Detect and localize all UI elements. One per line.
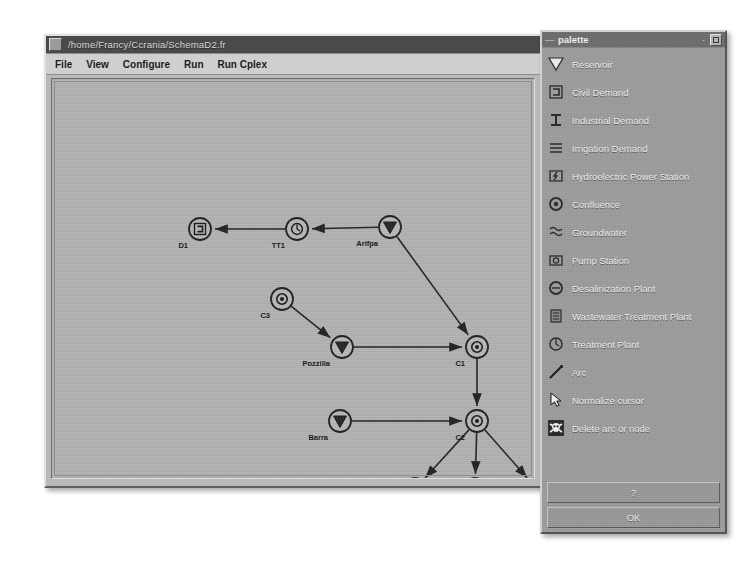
groundwater-icon [546, 222, 566, 242]
palette-item-delete-arc-or-node[interactable]: Delete arc or node [542, 414, 725, 442]
palette-item-label: Wastewater Treatment Plant [572, 311, 692, 322]
palette-item-treatment-plant[interactable]: Treatment Plant [542, 330, 725, 358]
menu-item-view[interactable]: View [86, 59, 109, 70]
palette-item-label: Confluence [572, 199, 620, 210]
hydroelectric-power-station-icon [546, 166, 566, 186]
graph-node-C3[interactable]: C3 [260, 288, 293, 320]
palette-item-label: Hydroelectric Power Station [572, 171, 689, 182]
palette-item-label: Reservoir [572, 59, 613, 70]
palette-item-list: ReservoirCivil DemandIndustrial DemandIr… [542, 48, 725, 442]
window-title-bar[interactable]: /home/Francy/Ccrania/SchemaD2.fr [46, 36, 541, 54]
arc[interactable] [397, 237, 468, 335]
graph-node-label: C3 [260, 311, 270, 320]
palette-item-irrigation-demand[interactable]: Irrigation Demand [542, 134, 725, 162]
civil-demand-icon [546, 82, 566, 102]
palette-maximize-icon[interactable] [710, 34, 722, 46]
cursor-arrow-icon [546, 390, 566, 410]
irrigation-demand-icon [546, 138, 566, 158]
graph-node-D1[interactable]: D1 [178, 218, 211, 250]
palette-item-label: Arc [572, 367, 586, 378]
palette-item-groundwater[interactable]: Groundwater [542, 218, 725, 246]
palette-item-label: Treatment Plant [572, 339, 639, 350]
schema-editor-window: /home/Francy/Ccrania/SchemaD2.fr File Vi… [44, 34, 543, 488]
palette-title: palette [558, 34, 702, 45]
graph-node-label: C2 [455, 433, 465, 442]
menu-item-run-cplex[interactable]: Run Cplex [218, 59, 267, 70]
confluence-icon [546, 194, 566, 214]
industrial-demand-icon [546, 110, 566, 130]
graph-node-Arifpa[interactable]: Arifpa [356, 216, 401, 248]
graph-node-label: Pozzilla [302, 359, 330, 368]
graph-node-TT1[interactable]: TT1 [272, 218, 308, 250]
pump-station-icon [546, 250, 566, 270]
palette-item-label: Desalinization Plant [572, 283, 655, 294]
palette-item-arc[interactable]: Arc [542, 358, 725, 386]
palette-menu-icon[interactable]: — [545, 35, 553, 45]
skull-delete-icon [546, 418, 566, 438]
graph-node-Pozzilla[interactable]: Pozzilla [302, 336, 353, 368]
graph-node-label: C1 [455, 359, 465, 368]
graph-node-label: Arifpa [356, 239, 378, 248]
graph-node-label: TT1 [272, 241, 285, 250]
graph-node-D4[interactable]: D4 [515, 478, 535, 479]
graph-node-C2[interactable]: C2 [455, 410, 488, 442]
palette-item-confluence[interactable]: Confluence [542, 190, 725, 218]
reservoir-triangle-icon [546, 54, 566, 74]
palette-item-desalinization-plant[interactable]: Desalinization Plant [542, 274, 725, 302]
palette-item-label: Delete arc or node [572, 423, 650, 434]
arc[interactable] [312, 227, 378, 228]
palette-item-label: Industrial Demand [572, 115, 649, 126]
graph-node-C1[interactable]: C1 [455, 336, 488, 368]
graph-node-D3[interactable]: D3 [453, 478, 486, 479]
menu-item-file[interactable]: File [55, 59, 72, 70]
palette-item-civil-demand[interactable]: Civil Demand [542, 78, 725, 106]
palette-item-label: Civil Demand [572, 87, 629, 98]
palette-item-label: Pump Station [572, 255, 629, 266]
arc[interactable] [475, 433, 476, 474]
palette-item-industrial-demand[interactable]: Industrial Demand [542, 106, 725, 134]
palette-button-row: ? OK [542, 478, 725, 528]
palette-item-reservoir[interactable]: Reservoir [542, 50, 725, 78]
palette-item-hydroelectric-power-station[interactable]: Hydroelectric Power Station [542, 162, 725, 190]
graph-node-D2[interactable]: D2 [393, 478, 426, 479]
palette-item-wastewater-treatment-plant[interactable]: Wastewater Treatment Plant [542, 302, 725, 330]
arc[interactable] [291, 306, 330, 337]
ok-button[interactable]: OK [547, 507, 720, 528]
diagram-canvas[interactable]: D1TT1ArifpaC3PozzillaC1BarraC2D2D3D4 [51, 78, 535, 479]
help-button[interactable]: ? [547, 482, 720, 503]
menu-item-run[interactable]: Run [184, 59, 203, 70]
window-menu-box-icon[interactable] [49, 38, 62, 51]
arc[interactable] [485, 430, 527, 478]
graph-node-label: D1 [178, 241, 188, 250]
palette-item-normalize-cursor[interactable]: Normalize cursor [542, 386, 725, 414]
palette-item-label: Irrigation Demand [572, 143, 648, 154]
graph-node-Barra[interactable]: Barra [308, 410, 351, 442]
palette-item-label: Normalize cursor [572, 395, 644, 406]
palette-item-pump-station[interactable]: Pump Station [542, 246, 725, 274]
arc-line-icon [546, 362, 566, 382]
desalinization-plant-icon [546, 278, 566, 298]
palette-minimize-icon[interactable]: · [702, 35, 705, 45]
menu-item-configure[interactable]: Configure [123, 59, 170, 70]
palette-title-bar[interactable]: — palette · [542, 32, 725, 48]
graph-node-label: Barra [308, 433, 328, 442]
treatment-plant-icon [546, 334, 566, 354]
wastewater-treatment-plant-icon [546, 306, 566, 326]
window-title: /home/Francy/Ccrania/SchemaD2.fr [68, 39, 226, 50]
palette-window: — palette · ReservoirCivil DemandIndustr… [540, 30, 727, 534]
menu-bar: File View Configure Run Run Cplex [46, 54, 541, 75]
palette-item-label: Groundwater [572, 227, 627, 238]
network-graph: D1TT1ArifpaC3PozzillaC1BarraC2D2D3D4 [52, 79, 535, 479]
